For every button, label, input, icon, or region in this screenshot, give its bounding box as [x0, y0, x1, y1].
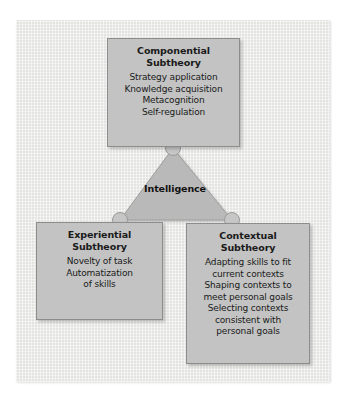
triarchic-theory-diagram: Componential Subtheory Strategy applicat… [0, 0, 350, 402]
contextual-item: Shaping contexts to [193, 280, 303, 292]
box-contextual-subtheory: Contextual Subtheory Adapting skills to … [186, 223, 310, 364]
box-componential-subtheory: Componential Subtheory Strategy applicat… [107, 38, 240, 147]
contextual-item: personal goals [193, 326, 303, 338]
componential-item: Self-regulation [108, 107, 239, 119]
contextual-item: Adapting skills to fit [193, 257, 303, 269]
contextual-item: current contexts [193, 269, 303, 281]
experiential-title-line2: Subtheory [37, 241, 162, 253]
experiential-item: of skills [37, 279, 162, 291]
experiential-title: Experiential Subtheory [37, 229, 162, 252]
componential-title: Componential Subtheory [108, 45, 239, 68]
componential-title-line1: Componential [108, 45, 239, 57]
intelligence-center-label: Intelligence [128, 183, 222, 194]
experiential-item: Novelty of task [37, 256, 162, 268]
componential-title-line2: Subtheory [108, 57, 239, 69]
componential-item-list: Strategy application Knowledge acquisiti… [108, 72, 239, 118]
contextual-item: meet personal goals [193, 292, 303, 304]
contextual-item: Selecting contexts [193, 303, 303, 315]
contextual-title: Contextual Subtheory [187, 230, 309, 253]
componential-item: Metacognition [108, 95, 239, 107]
contextual-title-line2: Subtheory [187, 242, 309, 254]
experiential-item-list: Novelty of task Automatization of skills [37, 256, 162, 291]
experiential-item: Automatization [37, 268, 162, 280]
contextual-item-list: Adapting skills to fit current contexts … [187, 257, 309, 338]
box-experiential-subtheory: Experiential Subtheory Novelty of task A… [36, 222, 163, 320]
experiential-title-line1: Experiential [37, 229, 162, 241]
componential-item: Strategy application [108, 72, 239, 84]
componential-item: Knowledge acquisition [108, 84, 239, 96]
contextual-title-line1: Contextual [187, 230, 309, 242]
contextual-item: consistent with [193, 315, 303, 327]
